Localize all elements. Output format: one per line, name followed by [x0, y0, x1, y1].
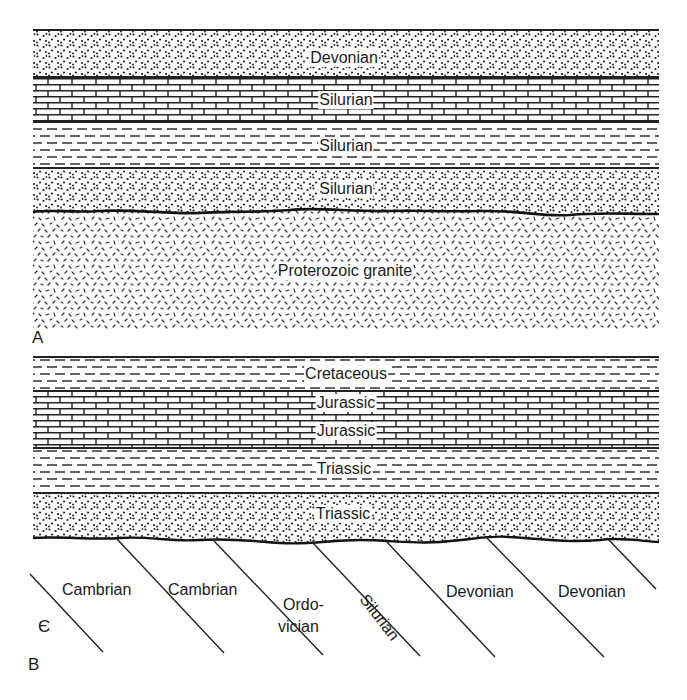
label-b-cambrian-2: Cambrian — [168, 581, 237, 599]
label-b-cambrian-symbol: Є — [38, 618, 50, 636]
label-b-cambrian-1: Cambrian — [62, 581, 131, 599]
label-a-silurian-limestone: Silurian — [318, 91, 373, 109]
label-b-jurassic-upper: Jurassic — [316, 394, 377, 412]
label-b-ordovician-line2: vician — [278, 618, 319, 636]
label-b-devonian-1: Devonian — [446, 583, 514, 601]
label-a-silurian-shale: Silurian — [318, 137, 373, 155]
tilted-contact-line — [607, 538, 656, 589]
label-a-devonian: Devonian — [309, 49, 379, 67]
label-b-cretaceous: Cretaceous — [304, 365, 388, 383]
label-b-triassic-sandstone: Triassic — [315, 505, 372, 523]
label-b-ordovician-line1: Ordo- — [283, 596, 324, 614]
label-b-triassic-shale: Triassic — [316, 460, 373, 478]
label-b-devonian-2: Devonian — [558, 583, 626, 601]
panel-letter-b: B — [28, 655, 39, 675]
panel-letter-a: A — [32, 328, 43, 348]
label-b-jurassic-lower: Jurassic — [316, 422, 377, 440]
label-a-silurian-sandstone: Silurian — [318, 180, 373, 198]
label-a-proterozoic-granite: Proterozoic granite — [277, 262, 413, 280]
